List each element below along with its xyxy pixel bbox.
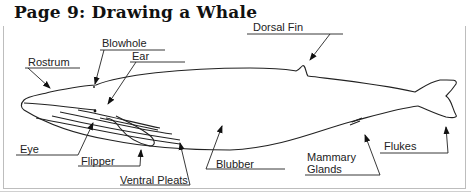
label-eye: Eye [20, 143, 39, 155]
label-mammary: Mammary [307, 151, 356, 163]
label-glands: Glands [307, 163, 356, 175]
eye-dot [94, 110, 97, 113]
label-flipper: Flipper [81, 155, 115, 167]
label-rostrum: Rostrum [28, 56, 70, 68]
label-flukes: Flukes [384, 140, 416, 152]
label-ventral-pleats: Ventral Pleats [120, 174, 188, 186]
label-blowhole: Blowhole [102, 37, 147, 49]
label-blubber: Blubber [216, 158, 254, 170]
label-dorsal-fin: Dorsal Fin [253, 21, 303, 33]
label-ear: Ear [132, 50, 149, 62]
label-mammary-glands: Mammary Glands [307, 151, 356, 175]
